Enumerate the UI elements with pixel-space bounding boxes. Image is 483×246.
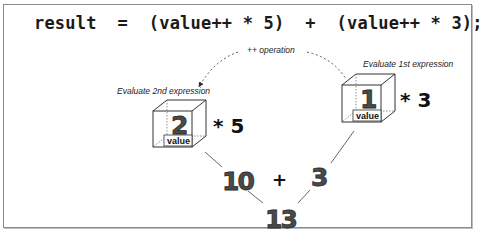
connector-cube2-to-10 [205,152,222,167]
connector-cube1-to-3 [331,131,354,163]
connector-3-to-13 [298,190,310,203]
plus-operator: + [272,169,287,190]
cube-second-value-label: value [167,136,190,146]
operation-label: ++ operation [247,45,295,55]
eval-first-label: Evaluate 1st expression [363,59,454,69]
operation-arc-left [200,52,238,85]
multiplier-three: * 3 [400,88,431,112]
multiplier-five: * 5 [213,114,244,138]
operation-arc-right [307,52,346,79]
product-ten: 10 [222,167,254,196]
cube-first-value-label: value [356,111,379,121]
eval-second-label: Evaluate 2nd expression [117,86,210,96]
cube-first: 1 value [342,74,395,122]
sum-thirteen: 13 [265,205,296,234]
product-three: 3 [311,163,328,192]
cube-second: 2 value [153,100,206,147]
